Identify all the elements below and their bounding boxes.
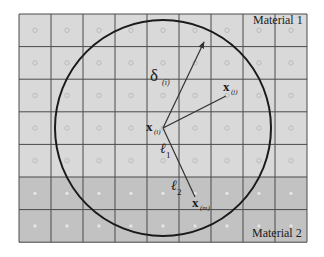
delta-symbol: δ	[150, 66, 158, 85]
material-point	[129, 224, 132, 227]
x-j-subscript: (j)	[231, 88, 238, 96]
x-i-subscript: (i)	[154, 128, 161, 136]
x-i-symbol: x	[146, 119, 153, 134]
material-point	[193, 224, 196, 227]
horizon-diagram: Material 1 Material 2 δ (i) x (i) x (j) …	[0, 0, 324, 257]
material-point	[289, 192, 292, 195]
material-point	[97, 192, 100, 195]
material-point	[257, 192, 260, 195]
material-point	[65, 192, 68, 195]
diagram-canvas: Material 1 Material 2 δ (i) x (i) x (j) …	[0, 0, 324, 257]
material-point	[129, 192, 132, 195]
x-m-symbol: x	[192, 195, 199, 210]
material-point	[33, 192, 36, 195]
material-1-label: Material 1	[253, 13, 303, 27]
material-point	[161, 224, 164, 227]
material-point	[65, 224, 68, 227]
material-1-row	[19, 47, 307, 80]
x-j-symbol: x	[223, 79, 230, 94]
material-point	[33, 224, 36, 227]
l2-subscript: 2	[177, 187, 182, 197]
material-point	[97, 224, 100, 227]
material-point	[225, 224, 228, 227]
delta-subscript: (i)	[162, 78, 170, 87]
material-point	[225, 192, 228, 195]
l1-subscript: 1	[166, 150, 171, 160]
material-point	[161, 192, 164, 195]
material-2-label: Material 2	[252, 226, 302, 240]
x-m-subscript: (m)	[200, 204, 210, 212]
